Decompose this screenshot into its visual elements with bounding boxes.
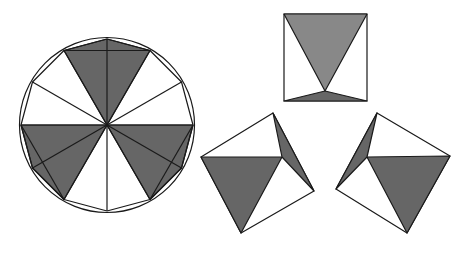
circle-figure: [20, 38, 195, 213]
radial-spokes: [21, 39, 193, 211]
dodecagon-dissection-diagram: [0, 0, 469, 255]
left-lower-shaded-region: [21, 125, 107, 200]
right-lower-shaded-region: [107, 125, 193, 200]
diagram-svg: [0, 0, 469, 255]
left-tilted-square: [201, 113, 314, 233]
top-square: [284, 14, 367, 101]
right-tilted-square: [336, 113, 450, 233]
